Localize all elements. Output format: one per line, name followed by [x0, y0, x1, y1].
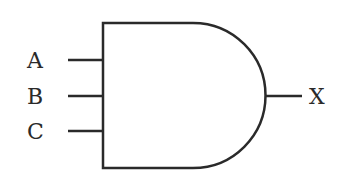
and-gate-diagram: A B C X	[0, 0, 342, 194]
input-label-a: A	[26, 48, 44, 73]
input-label-b: B	[27, 84, 43, 109]
input-label-c: C	[27, 119, 44, 144]
and-gate-body	[103, 23, 266, 168]
output-label-x: X	[309, 84, 325, 109]
